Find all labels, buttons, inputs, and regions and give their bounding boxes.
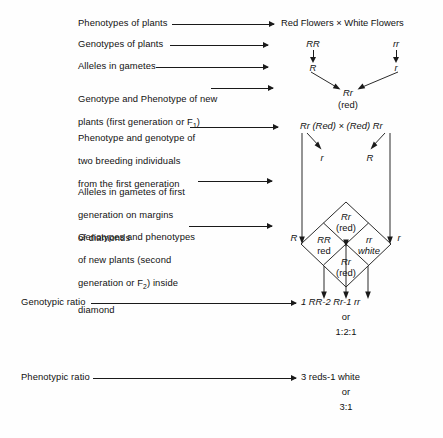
fertilization-arrow-right bbox=[360, 72, 398, 88]
cell-right-phenotype: white bbox=[358, 245, 380, 256]
value-genotypic-ratio: 1 RR-2 Rr-1 rr bbox=[301, 296, 360, 307]
cell-bottom-genotype: Rr bbox=[341, 256, 351, 267]
fertilization-arrow-right-head bbox=[358, 84, 366, 90]
cell-top-phenotype: (red) bbox=[336, 222, 356, 233]
value-genotypic-ratio-numeric: 1:2:1 bbox=[336, 326, 357, 337]
cell-bottom-phenotype: (red) bbox=[336, 267, 356, 278]
cell-left-genotype: RR bbox=[317, 234, 331, 245]
genetics-diagram-figure: Phenotypes of plants Genotypes of plants… bbox=[0, 0, 443, 438]
value-genotypic-or: or bbox=[342, 311, 350, 322]
value-phenotypic-ratio: 3 reds-1 white bbox=[301, 371, 360, 382]
genotypic-ratio-text: 1 RR-2 Rr-1 rr bbox=[301, 296, 360, 307]
fertilization-arrow-left bbox=[311, 72, 338, 88]
cell-left-phenotype: red bbox=[317, 245, 331, 256]
value-phenotypic-or: or bbox=[342, 386, 350, 397]
value-phenotypic-ratio-numeric: 3:1 bbox=[339, 401, 352, 412]
output-arrow-right-head bbox=[365, 292, 371, 300]
rail-left-arrowhead bbox=[299, 237, 305, 245]
punnett-diamond-graphic bbox=[0, 0, 443, 438]
cell-top-genotype: Rr bbox=[341, 211, 351, 222]
fertilization-arrow-left-head bbox=[333, 84, 341, 90]
cell-right-genotype: rr bbox=[366, 234, 372, 245]
rail-right-arrowhead bbox=[387, 237, 393, 245]
